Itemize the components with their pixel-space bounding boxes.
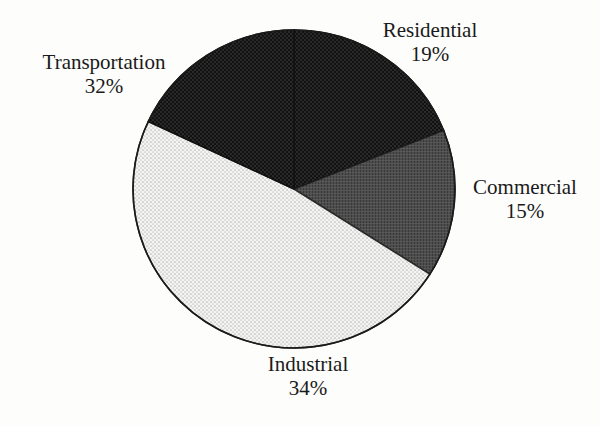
pie-label-commercial: Commercial 15% [452,175,598,224]
pie-label-industrial: Industrial 34% [218,352,398,401]
pie-label-commercial-name: Commercial [452,175,598,199]
pie-label-industrial-name: Industrial [218,352,398,376]
pie-label-residential-name: Residential [345,18,515,42]
pie-chart-figure: Residential 19% Commercial 15% Industria… [0,0,600,426]
pie-label-transportation-name: Transportation [8,50,200,74]
pie-label-transportation: Transportation 32% [8,50,200,99]
pie-label-transportation-value: 32% [8,74,200,98]
pie-label-industrial-value: 34% [218,376,398,400]
pie-label-residential: Residential 19% [345,18,515,67]
pie-label-residential-value: 19% [345,42,515,66]
pie-label-commercial-value: 15% [452,199,598,223]
